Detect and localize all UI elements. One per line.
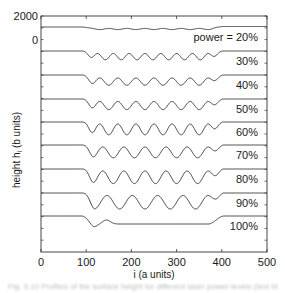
profile-curve [41, 75, 267, 85]
profile-curve [41, 51, 267, 60]
y-tick-label: 0 [32, 34, 38, 46]
x-tick-label: 100 [77, 256, 95, 268]
x-tick-label: 0 [38, 256, 44, 268]
series-labels: power = 20%30%40%50%60%70%80%90%100% [193, 31, 258, 232]
series-label: 100% [230, 220, 258, 232]
y-tick-label: 2000 [14, 10, 38, 22]
profile-curve [41, 145, 267, 158]
chart: 0100200300400500 20000 i (a units) heigh… [0, 0, 285, 293]
series-label: 70% [236, 149, 258, 161]
x-tick-label: 400 [213, 256, 231, 268]
y-axis-title: height hi (b units) [11, 112, 23, 188]
series-label: 30% [236, 55, 258, 67]
series-label: 90% [236, 197, 258, 209]
profile-curve [41, 169, 267, 184]
x-tick-label: 300 [167, 256, 185, 268]
series-label: power = 20% [193, 31, 258, 43]
series-label: 80% [236, 173, 258, 185]
x-tick-label: 500 [258, 256, 276, 268]
series-label: 50% [236, 103, 258, 115]
profile-curve [41, 99, 267, 110]
x-tick-label: 200 [122, 256, 140, 268]
profile-curve [41, 27, 267, 30]
profile-curves [41, 27, 267, 227]
profile-curve [41, 122, 267, 135]
x-axis-title: i (a units) [133, 269, 174, 280]
series-label: 60% [236, 126, 258, 138]
profile-curve [41, 193, 267, 209]
figure-caption: Fig. 3.10 Profiles of the surface height… [8, 282, 278, 292]
series-label: 40% [236, 79, 258, 91]
